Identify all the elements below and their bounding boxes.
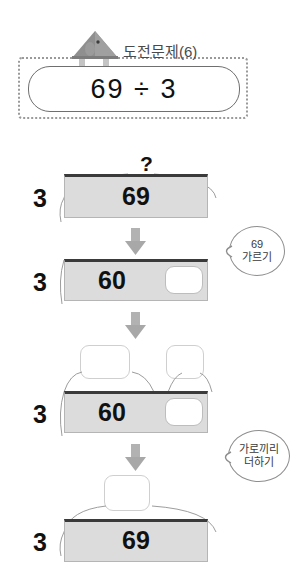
step-3-left-brace (50, 384, 80, 444)
step-1-cell-value: 69 (64, 174, 208, 218)
bubble-add: 가로끼리 더하기 (228, 430, 290, 482)
bubble-add-tail (218, 450, 232, 466)
page-title: 도전문제(6) (123, 40, 197, 61)
step-3-cell-empty-2[interactable] (165, 398, 203, 426)
step-1-divisor: 3 (33, 184, 47, 213)
arrow-down-1 (125, 228, 147, 256)
bubble-split-tail (219, 244, 233, 260)
step-2-divisor: 3 (33, 268, 47, 297)
bubble-split: 69 가르기 (229, 226, 285, 276)
house-bird-icon (68, 29, 122, 71)
arrow-down-2 (125, 312, 147, 340)
equation-text: 69 ÷ 3 (28, 66, 240, 112)
step-2-brace (50, 252, 80, 312)
step-3-divisor: 3 (33, 400, 47, 429)
bubble-add-line-1: 가로끼리 (239, 443, 279, 456)
bubble-split-line-1: 69 (251, 238, 263, 251)
arrow-down-3 (125, 444, 147, 472)
bubble-split-line-2: 가르기 (242, 251, 272, 264)
step-4-cell-value: 69 (64, 519, 208, 562)
step-2-cell-empty-2[interactable] (165, 266, 203, 294)
bubble-add-line-2: 더하기 (244, 456, 274, 469)
worksheet-canvas: 도전문제(6) 69 ÷ 3 ? 3 69 69 가르기 3 60 (0, 0, 304, 585)
step-4-divisor: 3 (33, 528, 47, 557)
